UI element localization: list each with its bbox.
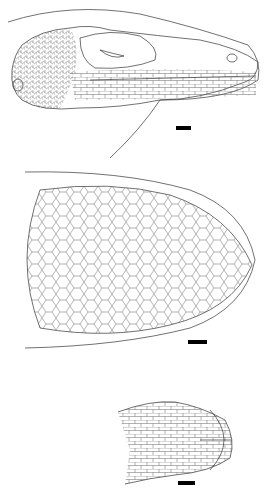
lateral-view — [8, 10, 259, 159]
ventral-view — [118, 402, 232, 485]
eye-slit — [100, 50, 124, 57]
scale-bar-1 — [176, 126, 191, 130]
orbit — [80, 32, 156, 68]
nostril — [227, 54, 237, 62]
figure — [0, 0, 269, 492]
dorsal-view — [25, 172, 255, 348]
scale-bar-3 — [178, 481, 195, 485]
scale-illustration — [0, 0, 269, 492]
scale-bar-2 — [188, 340, 207, 344]
